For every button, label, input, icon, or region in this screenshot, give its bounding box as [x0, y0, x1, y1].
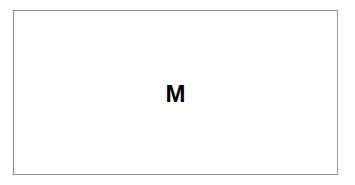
card-letter: M	[14, 11, 337, 174]
bordered-card: M	[13, 10, 338, 175]
